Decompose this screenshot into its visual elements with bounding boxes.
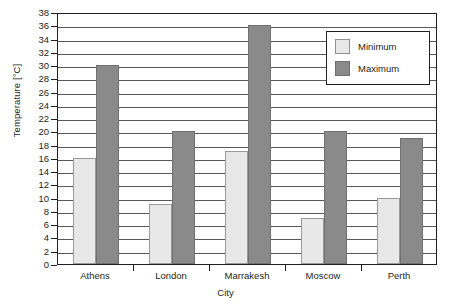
- legend-label-maximum: Maximum: [358, 63, 399, 74]
- legend-label-minimum: Minimum: [358, 41, 397, 52]
- bar-london-maximum: [172, 131, 195, 264]
- bar-marrakesh-minimum: [225, 151, 248, 264]
- x-tick-label-marrakesh: Marrakesh: [209, 270, 285, 281]
- bar-london-minimum: [149, 204, 172, 264]
- y-tick-label: 30: [23, 61, 49, 71]
- y-tick-label: 36: [23, 21, 49, 31]
- legend: Minimum Maximum: [326, 31, 430, 85]
- y-tick-label: 20: [23, 127, 49, 137]
- y-tick-mark: [51, 265, 57, 266]
- y-tick-label: 34: [23, 35, 49, 45]
- y-tick-label: 14: [23, 167, 49, 177]
- y-tick-label: 16: [23, 154, 49, 164]
- legend-swatch-maximum: [335, 61, 350, 76]
- y-tick-label: 38: [23, 8, 49, 18]
- x-tick-label-london: London: [133, 270, 209, 281]
- y-tick-label: 26: [23, 88, 49, 98]
- x-tick-label-moscow: Moscow: [285, 270, 361, 281]
- y-tick-label: 18: [23, 141, 49, 151]
- bar-perth-maximum: [400, 138, 423, 264]
- y-tick-label: 2: [23, 247, 49, 257]
- legend-entry-maximum: Maximum: [335, 61, 399, 76]
- y-tick-label: 0: [23, 260, 49, 270]
- y-tick-label: 24: [23, 101, 49, 111]
- bar-chart: Temperature [°C] 02468101214161820222426…: [0, 0, 451, 306]
- y-tick-label: 4: [23, 233, 49, 243]
- y-tick-label: 8: [23, 207, 49, 217]
- y-tick-label: 32: [23, 48, 49, 58]
- x-axis-title: City: [0, 287, 451, 298]
- legend-entry-minimum: Minimum: [335, 39, 397, 54]
- bar-moscow-maximum: [324, 131, 347, 264]
- legend-swatch-minimum: [335, 39, 350, 54]
- bar-moscow-minimum: [301, 218, 324, 264]
- y-axis-title: Temperature [°C]: [11, 41, 22, 161]
- y-tick-label: 12: [23, 180, 49, 190]
- bar-marrakesh-maximum: [248, 25, 271, 264]
- bar-athens-maximum: [96, 65, 119, 264]
- x-tick-label-perth: Perth: [361, 270, 437, 281]
- y-tick-label: 6: [23, 220, 49, 230]
- bar-perth-minimum: [377, 198, 400, 264]
- bar-athens-minimum: [73, 158, 96, 264]
- x-tick-label-athens: Athens: [57, 270, 133, 281]
- y-tick-label: 10: [23, 194, 49, 204]
- y-tick-label: 28: [23, 74, 49, 84]
- y-tick-label: 22: [23, 114, 49, 124]
